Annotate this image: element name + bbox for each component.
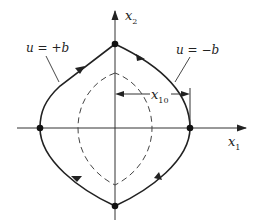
- direction-arrow-icon: [154, 172, 162, 180]
- plus-b-label: u = +b: [26, 41, 69, 55]
- phase-plane-diagram: x2 x1 u = +b u = −b x10: [0, 0, 259, 222]
- bottom-point: [112, 203, 119, 210]
- right-point: [187, 125, 194, 132]
- top-point: [112, 41, 119, 48]
- x2-axis-label: x2: [125, 8, 137, 26]
- x10-arrow-left-icon: [115, 91, 124, 97]
- minus-b-leader: [175, 57, 190, 82]
- x1-axis-label: x1: [228, 134, 240, 152]
- plus-b-leader: [46, 56, 59, 82]
- minus-b-label: u = −b: [176, 43, 219, 57]
- left-point: [37, 125, 44, 132]
- x10-arrow-right-icon: [181, 91, 190, 97]
- x10-label: x10: [151, 87, 169, 105]
